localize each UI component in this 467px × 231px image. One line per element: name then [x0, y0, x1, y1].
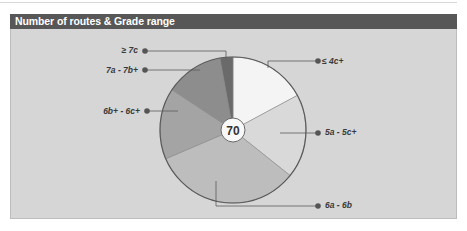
- callout-dot: [315, 58, 321, 64]
- label-le-4c: ≤ 4c+: [322, 56, 343, 66]
- label-ge-7c: ≥ 7c: [122, 45, 139, 55]
- callout-line: [268, 61, 318, 68]
- label-6a-6b: 6a - 6b: [325, 200, 352, 210]
- callout-dot: [144, 108, 150, 114]
- label-6b-6c: 6b+ - 6c+: [103, 106, 140, 116]
- callout-line: [145, 51, 226, 58]
- total-count: 70: [226, 124, 240, 138]
- callout-dot: [142, 67, 148, 73]
- callout-dot: [142, 48, 148, 54]
- label-5a-5c: 5a - 5c+: [325, 127, 356, 137]
- label-7a-7b: 7a - 7b+: [106, 65, 138, 75]
- callout-dot: [315, 203, 321, 209]
- callout-dot: [315, 130, 321, 136]
- pie-chart: 70 ≤ 4c+ 5a - 5c+ 6a - 6b 6b+ - 6c+ 7a -…: [0, 0, 467, 231]
